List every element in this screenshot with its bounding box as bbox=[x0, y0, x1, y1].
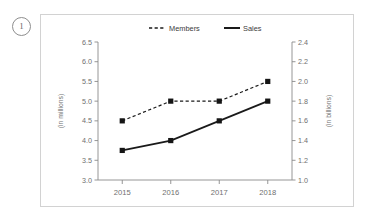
data-point-sales[interactable] bbox=[120, 148, 125, 153]
series-members bbox=[120, 79, 271, 124]
data-point-members[interactable] bbox=[120, 118, 125, 123]
data-point-members[interactable] bbox=[168, 99, 173, 104]
data-point-members[interactable] bbox=[217, 99, 222, 104]
legend-item-sales[interactable]: Sales bbox=[224, 24, 262, 33]
data-point-members[interactable] bbox=[265, 79, 270, 84]
x-axis-tick-label: 2015 bbox=[114, 188, 131, 197]
chart-frame: MembersSales3.03.54.04.55.05.56.06.5(in … bbox=[40, 14, 354, 207]
left-axis-tick-label: 5.0 bbox=[82, 97, 92, 106]
left-axis-tick-label: 4.5 bbox=[82, 116, 92, 125]
figure-container: 1 MembersSales3.03.54.04.55.05.56.06.5(i… bbox=[0, 0, 367, 217]
legend-item-members[interactable]: Members bbox=[149, 24, 200, 33]
legend-label-members: Members bbox=[169, 24, 200, 33]
left-axis-tick-label: 3.5 bbox=[82, 156, 92, 165]
right-axis-tick-label: 2.0 bbox=[298, 77, 308, 86]
item-number-badge: 1 bbox=[12, 17, 31, 36]
right-axis-tick-label: 2.4 bbox=[298, 38, 308, 47]
right-axis-tick-label: 2.2 bbox=[298, 57, 308, 66]
x-axis-tick-label: 2016 bbox=[162, 188, 179, 197]
right-axis-tick-label: 1.8 bbox=[298, 97, 308, 106]
right-axis-title: (in billions) bbox=[325, 95, 333, 127]
series-line-sales bbox=[122, 101, 268, 150]
right-axis-tick-label: 1.6 bbox=[298, 116, 308, 125]
legend-label-sales: Sales bbox=[243, 24, 262, 33]
right-axis-tick-label: 1.4 bbox=[298, 136, 308, 145]
series-line-members bbox=[122, 81, 268, 120]
left-axis-tick-label: 5.5 bbox=[82, 77, 92, 86]
line-chart: MembersSales3.03.54.04.55.05.56.06.5(in … bbox=[41, 15, 355, 208]
data-point-sales[interactable] bbox=[168, 138, 173, 143]
right-axis-tick-label: 1.0 bbox=[298, 176, 308, 185]
data-point-sales[interactable] bbox=[217, 118, 222, 123]
x-axis-tick-label: 2017 bbox=[211, 188, 228, 197]
data-point-sales[interactable] bbox=[265, 99, 270, 104]
right-axis-tick-label: 1.2 bbox=[298, 156, 308, 165]
left-axis-tick-label: 6.5 bbox=[82, 38, 92, 47]
left-axis-title: (in millions) bbox=[57, 94, 65, 128]
series-sales bbox=[120, 99, 271, 153]
left-axis-tick-label: 4.0 bbox=[82, 136, 92, 145]
x-axis-tick-label: 2018 bbox=[259, 188, 276, 197]
left-axis-tick-label: 6.0 bbox=[82, 57, 92, 66]
left-axis-tick-label: 3.0 bbox=[82, 176, 92, 185]
